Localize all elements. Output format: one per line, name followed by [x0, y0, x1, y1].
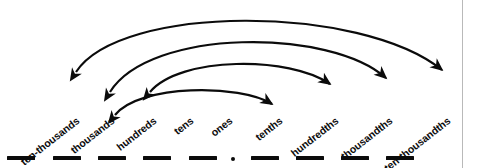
blank-ten-thousandths	[386, 156, 414, 160]
blank-thousandths	[341, 156, 369, 160]
blank-ten-thousands	[7, 156, 35, 160]
blank-tens	[143, 156, 171, 160]
arc-thousands-to-thousandths	[110, 42, 386, 92]
decimal-point	[231, 157, 235, 161]
blank-hundredths	[296, 156, 324, 160]
place-value-diagram: ten-thousandsthousandshundredstensoneste…	[0, 0, 477, 168]
blank-hundreds	[98, 156, 126, 160]
blank-thousands	[53, 156, 81, 160]
arc-hundreds-to-hundredths	[150, 64, 330, 92]
right-border-rule	[462, 0, 463, 168]
blank-ones	[189, 156, 217, 160]
blank-tenths	[251, 156, 279, 160]
arc-ones-to-tenths	[115, 90, 272, 115]
